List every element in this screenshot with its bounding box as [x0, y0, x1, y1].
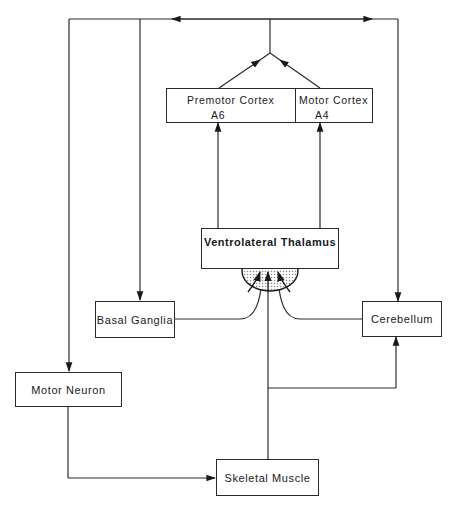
skeletal-muscle-box: Skeletal Muscle [216, 459, 319, 496]
motor-neuron-label: Motor Neuron [31, 384, 105, 396]
motor-neuron-box: Motor Neuron [15, 372, 122, 407]
skeletal-muscle-label: Skeletal Muscle [224, 472, 310, 484]
basal-ganglia-box: Basal Ganglia [95, 301, 175, 338]
premotor-cortex-area: A6 [211, 109, 225, 121]
cortex-divider [295, 89, 296, 122]
ventrolateral-thalamus-box: Ventrolateral Thalamus [201, 228, 339, 269]
motor-cortex-area: A4 [315, 109, 329, 121]
cerebellum-label: Cerebellum [371, 313, 433, 325]
motor-cortex-label: Motor Cortex [299, 94, 368, 106]
ventrolateral-thalamus-label: Ventrolateral Thalamus [202, 236, 338, 248]
cerebellum-box: Cerebellum [362, 301, 442, 337]
basal-ganglia-label: Basal Ganglia [97, 314, 173, 326]
premotor-cortex-label: Premotor Cortex [187, 94, 275, 106]
cortex-box: Premotor Cortex A6 Motor Cortex A4 [166, 88, 373, 123]
